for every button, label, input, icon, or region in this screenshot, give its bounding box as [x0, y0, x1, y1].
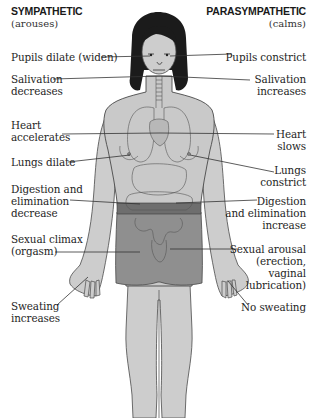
label-salivation-decreases: Salivation decreases: [11, 73, 63, 97]
label-digestion-increase: Digestion and elimination increase: [225, 195, 306, 231]
label-sweating-increases: Sweating increases: [11, 300, 60, 324]
label-heart-accelerates: Heart accelerates: [11, 119, 70, 143]
sympathetic-header: SYMPATHETIC: [11, 5, 83, 17]
label-pupils-constrict: Pupils constrict: [225, 51, 306, 63]
sympathetic-subtitle: (arouses): [11, 18, 58, 29]
label-lungs-dilate: Lungs dilate: [11, 156, 75, 168]
parasympathetic-header: PARASYMPATHETIC: [206, 5, 306, 17]
shorts-icon: [116, 212, 203, 285]
label-no-sweating: No sweating: [241, 301, 306, 313]
label-pupils-dilate: Pupils dilate (widen): [11, 51, 117, 63]
label-sexual-climax: Sexual climax (orgasm): [11, 233, 83, 257]
label-lungs-constrict: Lungs constrict: [260, 164, 306, 188]
diagram: SYMPATHETIC (arouses) PARASYMPATHETIC (c…: [0, 0, 317, 418]
label-heart-slows: Heart slows: [276, 128, 306, 152]
label-sexual-arousal: Sexual arousal (erection, vaginal lubric…: [230, 243, 306, 291]
label-salivation-increases: Salivation increases: [255, 73, 306, 97]
label-digestion-decrease: Digestion and elimination decrease: [11, 183, 83, 219]
parasympathetic-subtitle: (calms): [269, 18, 306, 29]
